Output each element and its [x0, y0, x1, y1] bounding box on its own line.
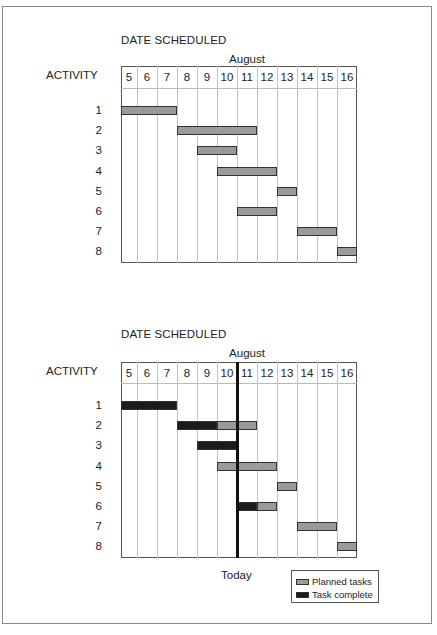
day-header: 14 — [297, 71, 317, 83]
grid-line — [137, 362, 138, 558]
day-header: 7 — [157, 367, 177, 379]
grid-line — [217, 66, 218, 263]
day-header: 10 — [217, 367, 237, 379]
grid-line — [257, 66, 258, 263]
legend-label-complete: Task complete — [312, 589, 373, 600]
complete-task-bar — [197, 441, 237, 450]
grid-line — [277, 362, 278, 558]
complete-task-bar — [237, 502, 257, 511]
day-header: 16 — [337, 71, 357, 83]
grid-line — [157, 362, 158, 558]
day-header: 16 — [337, 367, 357, 379]
day-header: 8 — [177, 71, 197, 83]
day-header: 9 — [197, 367, 217, 379]
grid-line — [157, 66, 158, 263]
day-header: 15 — [317, 71, 337, 83]
month-label: August — [217, 347, 277, 359]
today-label: Today — [221, 569, 252, 581]
today-marker-line — [236, 362, 239, 558]
activity-row-label: 3 — [88, 144, 102, 156]
planned-task-bar — [217, 462, 277, 471]
day-header: 5 — [121, 367, 137, 379]
planned-task-bar — [177, 126, 257, 135]
planned-task-bar — [257, 502, 277, 511]
grid-line — [237, 66, 238, 263]
day-header: 12 — [257, 367, 277, 379]
activity-row-label: 6 — [88, 205, 102, 217]
activity-row-label: 5 — [88, 480, 102, 492]
complete-swatch-icon — [296, 592, 309, 598]
grid-line — [337, 362, 338, 558]
activity-row-label: 4 — [88, 165, 102, 177]
activity-row-label: 6 — [88, 500, 102, 512]
activity-row-label: 8 — [88, 245, 102, 257]
day-header: 11 — [237, 367, 257, 379]
legend-item-planned: Planned tasks — [296, 576, 372, 587]
activity-row-label: 2 — [88, 419, 102, 431]
day-header: 5 — [121, 71, 137, 83]
activity-row-label: 4 — [88, 460, 102, 472]
chart-title: DATE SCHEDULED — [121, 328, 226, 340]
activity-axis-label: ACTIVITY — [46, 69, 98, 81]
planned-task-bar — [121, 106, 177, 115]
day-header: 7 — [157, 71, 177, 83]
activity-row-label: 1 — [88, 104, 102, 116]
day-header: 6 — [137, 367, 157, 379]
day-header: 8 — [177, 367, 197, 379]
day-header: 10 — [217, 71, 237, 83]
day-header: 13 — [277, 71, 297, 83]
activity-row-label: 7 — [88, 520, 102, 532]
grid-line — [257, 362, 258, 558]
planned-task-bar — [297, 522, 337, 531]
chart-title: DATE SCHEDULED — [121, 34, 226, 46]
activity-row-label: 1 — [88, 399, 102, 411]
day-header: 9 — [197, 71, 217, 83]
planned-task-bar — [297, 227, 337, 236]
day-header: 13 — [277, 367, 297, 379]
grid-line — [217, 362, 218, 558]
day-header: 14 — [297, 367, 317, 379]
day-header: 6 — [137, 71, 157, 83]
legend-item-complete: Task complete — [296, 589, 373, 600]
grid-line — [177, 362, 178, 558]
day-header: 11 — [237, 71, 257, 83]
legend-label-planned: Planned tasks — [312, 576, 372, 587]
day-header: 15 — [317, 367, 337, 379]
activity-row-label: 7 — [88, 225, 102, 237]
month-label: August — [217, 53, 277, 65]
legend: Planned tasks Task complete — [291, 570, 379, 603]
activity-row-label: 3 — [88, 439, 102, 451]
activity-row-label: 5 — [88, 185, 102, 197]
day-header: 12 — [257, 71, 277, 83]
planned-task-bar — [337, 247, 357, 256]
planned-task-bar — [197, 146, 237, 155]
planned-task-bar — [277, 482, 297, 491]
grid-line — [277, 66, 278, 263]
grid-line — [197, 362, 198, 558]
grid-line — [337, 66, 338, 263]
planned-task-bar — [337, 542, 357, 551]
complete-task-bar — [177, 421, 217, 430]
grid-line — [137, 66, 138, 263]
planned-swatch-icon — [296, 579, 309, 585]
grid-line — [197, 66, 198, 263]
planned-task-bar — [277, 187, 297, 196]
planned-task-bar — [237, 207, 277, 216]
complete-task-bar — [121, 401, 177, 410]
planned-task-bar — [217, 167, 277, 176]
grid-line — [177, 66, 178, 263]
activity-row-label: 2 — [88, 124, 102, 136]
activity-row-label: 8 — [88, 540, 102, 552]
activity-axis-label: ACTIVITY — [46, 365, 98, 377]
